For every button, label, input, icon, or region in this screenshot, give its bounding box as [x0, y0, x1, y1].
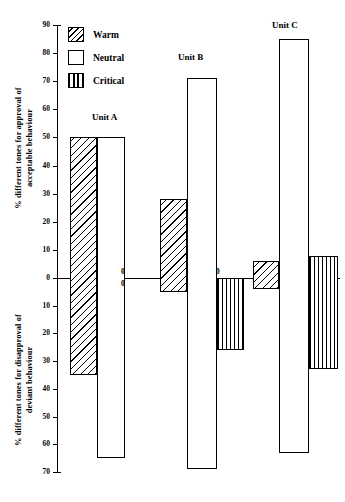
y-tick-top-50	[53, 137, 57, 138]
y-tick-label-bottom-70: 70	[34, 467, 50, 476]
bar-unit-c-critical	[309, 256, 338, 370]
legend-label-neutral: Neutral	[93, 53, 124, 63]
y-tick-bottom-10	[53, 306, 57, 307]
legend-label-critical: Critical	[93, 76, 124, 86]
y-tick-label-top-70: 70	[34, 76, 50, 85]
y-tick-top-10	[53, 250, 57, 251]
y-axis-spine	[57, 25, 58, 472]
y-tick-label-top-30: 30	[34, 189, 50, 198]
white-swatch	[68, 50, 84, 65]
y-axis-label-disapproval: % different tones for disapproval of dev…	[14, 290, 35, 470]
y-tick-label-top-90: 90	[34, 20, 50, 29]
legend-item-warm: Warm	[68, 24, 124, 45]
legend-item-critical: Critical	[68, 70, 124, 91]
bar-unit-a-warm	[70, 137, 97, 375]
zero-annotation-3: 0	[216, 267, 220, 276]
y-tick-top-70	[53, 81, 57, 82]
y-tick-label-top-40: 40	[34, 161, 50, 170]
y-tick-label-bottom-30: 30	[34, 356, 50, 365]
vertical-lines-swatch	[68, 73, 84, 88]
zero-annotation-1: 0	[121, 267, 125, 276]
y-tick-top-90	[53, 25, 57, 26]
y-tick-top-30	[53, 194, 57, 195]
y-tick-top-60	[53, 109, 57, 110]
zero-annotation-2: 0	[121, 279, 125, 288]
diagonal-hatch-swatch	[68, 27, 84, 42]
group-label-unit-a: Unit A	[92, 112, 117, 122]
bar-unit-b-warm	[160, 199, 187, 292]
legend-label-warm: Warm	[93, 30, 119, 40]
bar-unit-b-critical	[217, 278, 244, 350]
y-tick-label-bottom-40: 40	[34, 384, 50, 393]
y-tick-label-bottom-20: 20	[34, 328, 50, 337]
group-label-unit-b: Unit B	[178, 52, 203, 62]
y-axis-label-approval: % different tones for approval of accept…	[14, 28, 35, 268]
y-tick-top-20	[53, 222, 57, 223]
bar-unit-c-warm	[253, 261, 279, 289]
y-tick-top-80	[53, 53, 57, 54]
y-tick-label-bottom-50: 50	[34, 412, 50, 421]
y-axis-bottom-cap	[57, 472, 61, 473]
y-tick-bottom-60	[53, 444, 57, 445]
bar-chart: % different tones for approval of accept…	[0, 0, 345, 502]
y-tick-label-top-20: 20	[34, 217, 50, 226]
y-tick-bottom-20	[53, 333, 57, 334]
y-tick-bottom-50	[53, 417, 57, 418]
y-tick-label-bottom-60: 60	[34, 439, 50, 448]
y-tick-label-top-80: 80	[34, 48, 50, 57]
group-label-unit-c: Unit C	[272, 20, 298, 30]
legend-item-neutral: Neutral	[68, 47, 124, 68]
y-tick-bottom-70	[53, 472, 57, 473]
y-tick-label-bottom-10: 10	[34, 301, 50, 310]
bar-unit-b-neutral	[187, 78, 217, 469]
bar-unit-a-neutral	[97, 137, 125, 458]
y-tick-label-top-10: 10	[34, 245, 50, 254]
y-tick-top-40	[53, 166, 57, 167]
y-tick-label-top-60: 60	[34, 104, 50, 113]
bar-unit-c-neutral	[279, 39, 309, 453]
y-axis-top-cap	[57, 25, 61, 26]
y-tick-label-top-0: 0	[34, 273, 50, 282]
y-tick-bottom-30	[53, 361, 57, 362]
y-tick-bottom-40	[53, 389, 57, 390]
legend: WarmNeutralCritical	[68, 24, 124, 93]
y-tick-label-top-50: 50	[34, 132, 50, 141]
